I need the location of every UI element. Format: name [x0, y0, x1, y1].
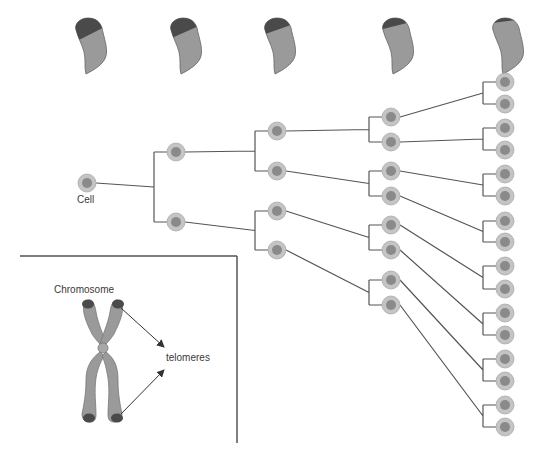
- cell-label: Cell: [77, 194, 94, 205]
- chromosome-icon: [82, 300, 124, 423]
- cell-icon: [496, 212, 514, 230]
- telomere-shortening-diagram: [0, 0, 537, 459]
- cell-icon: [382, 108, 400, 126]
- division-branch: [400, 196, 496, 242]
- telomere-cap-icon: [83, 414, 95, 423]
- division-branch: [96, 152, 167, 222]
- telomere-cap-icon: [82, 300, 94, 309]
- cell-icon: [268, 202, 286, 220]
- division-branch: [286, 117, 382, 142]
- division-branch: [185, 211, 268, 250]
- cell-icon: [78, 174, 96, 192]
- telomere-length-icon: [167, 14, 202, 74]
- division-branch: [400, 280, 496, 381]
- centromere: [98, 343, 108, 353]
- telomere-length-icon: [72, 14, 107, 74]
- cell-icon: [382, 187, 400, 205]
- division-branch: [286, 171, 382, 196]
- telomere-cap-icon: [112, 300, 124, 309]
- cell-icon: [496, 73, 514, 91]
- telomere-cap-icon: [111, 414, 123, 423]
- cell-icon: [167, 213, 185, 231]
- cell-icon: [382, 271, 400, 289]
- cell-icon: [382, 241, 400, 259]
- cell-icon: [496, 418, 514, 436]
- cell-icon: [496, 280, 514, 298]
- division-branch: [185, 131, 268, 171]
- cell-icon: [496, 350, 514, 368]
- cell-icon: [382, 216, 400, 234]
- telomere-progression-row: [72, 14, 524, 74]
- cell-icon: [496, 119, 514, 137]
- division-branch: [286, 211, 382, 250]
- cell-icon: [496, 141, 514, 159]
- arrow-to-bottom-telomere: [121, 370, 164, 414]
- cell-icon: [496, 95, 514, 113]
- cell-icon: [496, 233, 514, 251]
- cell-icon: [496, 396, 514, 414]
- cell-icon: [382, 296, 400, 314]
- cell-icon: [496, 372, 514, 390]
- arrow-to-top-telomere: [121, 308, 164, 347]
- cell-icon: [167, 143, 185, 161]
- chromosome-inset-box: [20, 256, 237, 443]
- cell-icon: [496, 187, 514, 205]
- division-branch: [400, 128, 496, 150]
- cell-icon: [268, 241, 286, 259]
- cell-icon: [268, 162, 286, 180]
- division-branch: [400, 82, 496, 117]
- division-branch: [400, 225, 496, 289]
- telomeres-label: telomeres: [166, 352, 210, 363]
- division-branch: [400, 171, 496, 196]
- cell-icon: [496, 326, 514, 344]
- chromosome-label: Chromosome: [54, 284, 114, 295]
- division-branch: [400, 250, 496, 335]
- telomere-length-icon: [379, 14, 414, 74]
- telomere-length-icon: [489, 14, 524, 74]
- division-branch: [286, 250, 382, 305]
- cell-icon: [496, 304, 514, 322]
- cell-icon: [496, 165, 514, 183]
- cell-icon: [382, 162, 400, 180]
- cell-icon: [268, 122, 286, 140]
- cell-icon: [382, 133, 400, 151]
- cell-icon: [496, 257, 514, 275]
- telomere-length-icon: [261, 14, 296, 74]
- cell-division-lines: [96, 82, 496, 427]
